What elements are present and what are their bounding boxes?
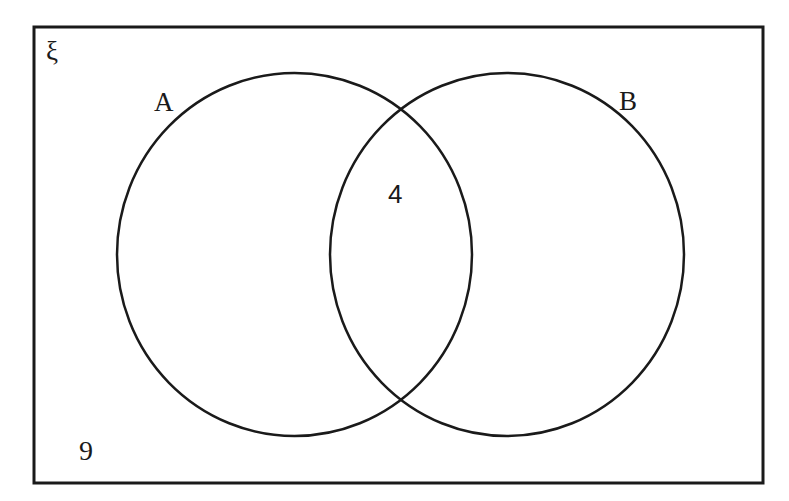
set-b-circle [330, 73, 684, 436]
set-a-circle [117, 73, 472, 436]
universal-set-box [34, 27, 763, 483]
set-a-label: A [154, 89, 174, 116]
universal-set-symbol: ξ [46, 38, 58, 65]
venn-diagram [0, 0, 789, 501]
outside-count: 9 [79, 437, 93, 465]
set-b-label: B [619, 88, 637, 115]
intersection-count: 4 [388, 181, 402, 207]
